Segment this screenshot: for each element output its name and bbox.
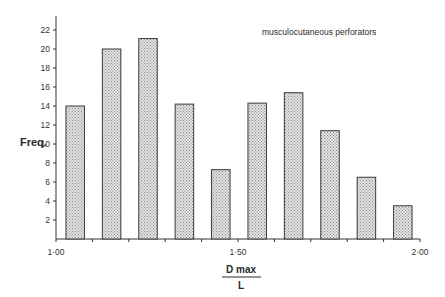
histogram-bar bbox=[66, 106, 85, 239]
x-tick-label: 2·00 bbox=[411, 247, 428, 257]
x-axis-label: D max L bbox=[222, 264, 261, 291]
x-axis-label-denominator: L bbox=[238, 280, 244, 291]
histogram-bar bbox=[284, 93, 303, 239]
histogram-bar bbox=[212, 170, 231, 239]
bars bbox=[66, 39, 412, 239]
y-tick-label: 2 bbox=[45, 215, 50, 225]
y-tick-label: 18 bbox=[41, 63, 51, 73]
y-axis-label: Freq. bbox=[20, 136, 47, 148]
y-tick-label: 12 bbox=[41, 120, 51, 130]
x-tick-label: 1·50 bbox=[229, 247, 246, 257]
x-axis: 1·001·502·00 bbox=[47, 239, 428, 257]
histogram-bar bbox=[394, 206, 413, 239]
y-tick-label: 4 bbox=[45, 196, 50, 206]
histogram-bar bbox=[102, 49, 121, 239]
series-annotation: musculocutaneous perforators bbox=[262, 27, 376, 37]
y-tick-label: 8 bbox=[45, 158, 50, 168]
histogram-bar bbox=[175, 104, 194, 239]
y-tick-label: 16 bbox=[41, 82, 51, 92]
y-tick-label: 14 bbox=[41, 101, 51, 111]
histogram-bar bbox=[248, 103, 267, 239]
y-tick-label: 6 bbox=[45, 177, 50, 187]
histogram-bar bbox=[357, 177, 376, 239]
histogram-bar bbox=[321, 131, 340, 239]
y-tick-label: 20 bbox=[41, 44, 51, 54]
histogram-bar bbox=[139, 39, 158, 239]
histogram-chart: 246810121416182022 1·001·502·00 Freq. mu… bbox=[0, 0, 445, 297]
x-axis-label-numerator: D max bbox=[226, 264, 256, 275]
y-axis: 246810121416182022 bbox=[41, 16, 56, 239]
x-tick-label: 1·00 bbox=[47, 247, 64, 257]
y-tick-label: 22 bbox=[41, 25, 51, 35]
